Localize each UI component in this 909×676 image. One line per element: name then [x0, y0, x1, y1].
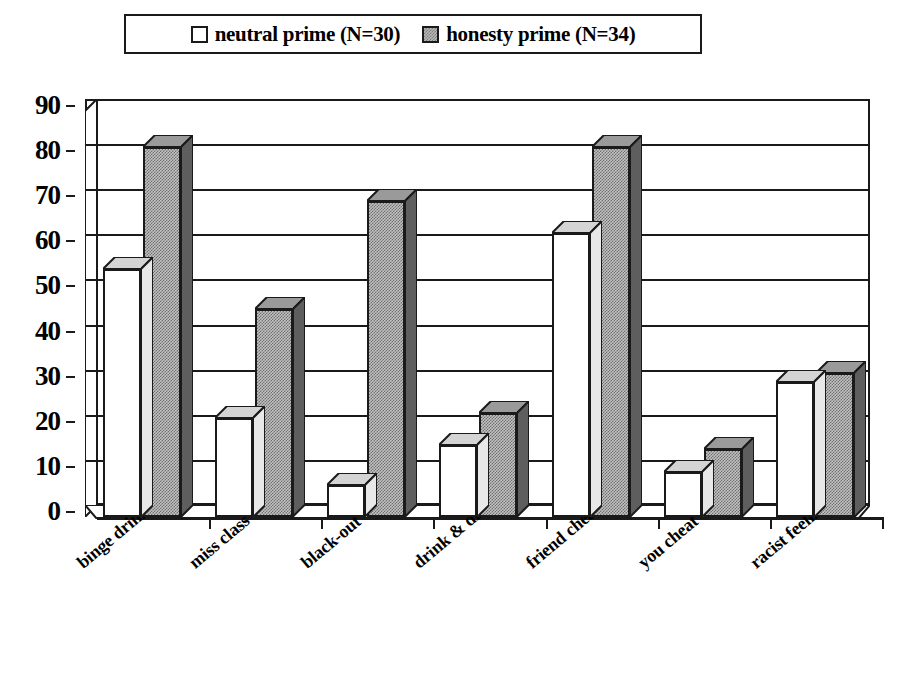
bar-side-face	[590, 221, 602, 517]
bar-neutral-prime	[776, 382, 814, 517]
bar-neutral-prime	[215, 418, 253, 517]
x-axis-tick-mark	[658, 517, 660, 529]
bar-front-face	[664, 472, 702, 517]
plot-area: 0102030405060708090 binge drinkingmiss c…	[0, 0, 909, 676]
bar-side-face	[854, 361, 866, 517]
bar-side-face	[253, 406, 265, 517]
x-axis-tick-mark	[433, 517, 435, 529]
bar-side-face	[293, 297, 305, 517]
bar-front-face	[552, 233, 590, 517]
bar-front-face	[439, 445, 477, 517]
bar-neutral-prime	[439, 445, 477, 517]
bar-side-face	[630, 135, 642, 517]
bar-front-face	[215, 418, 253, 517]
bar-front-face	[776, 382, 814, 517]
x-axis-tick-mark	[209, 517, 211, 529]
bar-honesty-prime	[367, 201, 405, 517]
bar-neutral-prime	[664, 472, 702, 517]
x-axis-tick-mark	[321, 517, 323, 529]
bar-front-face	[103, 269, 141, 517]
x-axis-tick-mark	[770, 517, 772, 529]
bar-side-face	[405, 189, 417, 517]
bar-side-face	[814, 370, 826, 517]
bar-side-face	[141, 257, 153, 517]
bar-side-face	[181, 135, 193, 517]
bar-neutral-prime	[103, 269, 141, 517]
bar-neutral-prime	[552, 233, 590, 517]
x-axis-category-label: miss class	[185, 510, 254, 573]
bar-chart: neutral prime (N=30) honesty prime (N=34…	[0, 0, 909, 676]
bar-side-face	[742, 437, 754, 517]
bar-side-face	[477, 433, 489, 517]
bar-front-face	[327, 485, 365, 517]
bar-side-face	[517, 401, 529, 517]
bar-neutral-prime	[327, 485, 365, 517]
x-axis-category-label: you cheat	[634, 511, 702, 573]
x-axis-tick-mark	[882, 517, 884, 529]
bar-side-face	[365, 473, 377, 517]
bar-front-face	[367, 201, 405, 517]
x-axis-tick-mark	[546, 517, 548, 529]
bar-side-face	[702, 460, 714, 517]
x-axis-category-label: black-out	[297, 511, 365, 573]
